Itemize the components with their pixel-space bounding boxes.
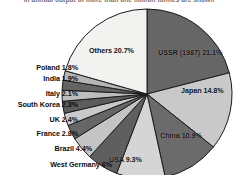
- slice-label-usa: USA 9.3%: [109, 155, 142, 164]
- slice-label-japan: Japan 14.8%: [181, 86, 224, 95]
- callout-label-uk: UK 2.4%: [0, 115, 78, 124]
- callout-label-india: India 1.9%: [0, 74, 78, 83]
- callout-label-italy: Italy 2.1%: [0, 89, 78, 98]
- callout-label-west-germany: West Germany 6%: [0, 160, 112, 169]
- slice-label-ussr: USSR (1987) 21.1%: [158, 48, 222, 57]
- slice-label-others: Others 20.7%: [89, 46, 134, 55]
- pie-chart-figure: in annual output of more than one millio…: [0, 0, 238, 175]
- callout-label-france: France 2.8%: [0, 129, 78, 138]
- slice-label-china: China 10.9%: [160, 131, 202, 140]
- callout-label-poland: Poland 1.8%: [0, 63, 78, 72]
- callout-label-brazil: Brazil 4.4%: [0, 144, 92, 153]
- callout-label-south-korea: South Korea 2.3%: [0, 100, 78, 109]
